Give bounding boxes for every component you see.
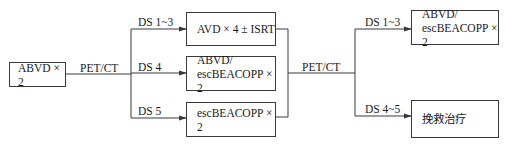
pet-ct-label-1: PET/CT: [80, 62, 118, 74]
condition-ds4-5: DS 4~5: [365, 103, 400, 115]
treatment-box-avd-isrt: AVD × 4 ± ISRT: [186, 12, 276, 46]
treatment-line: escBEACOPP × 2: [197, 67, 275, 95]
treatment-box-abvd-escbeacopp: ABVD/ escBEACOPP × 2: [186, 56, 276, 91]
treatment-line: ABVD/: [197, 53, 275, 67]
pet-ct-label-2: PET/CT: [302, 61, 340, 73]
treatment-line: 挽救治疗: [422, 112, 498, 126]
treatment-line: escBEACOPP × 2: [197, 106, 275, 134]
condition-ds1-3: DS 1~3: [138, 16, 173, 28]
condition-ds1-3-second: DS 1~3: [365, 16, 400, 28]
start-box-abvd: ABVD × 2: [9, 62, 66, 87]
condition-ds4: DS 4: [138, 61, 161, 73]
treatment-line: escBEACOPP × 2: [422, 21, 498, 49]
start-box-label: ABVD × 2: [18, 61, 65, 89]
condition-ds5: DS 5: [138, 105, 161, 117]
treatment-line: ABVD/: [422, 7, 498, 21]
treatment-box-salvage-therapy: 挽救治疗: [411, 100, 499, 138]
treatment-box-escbeacopp: escBEACOPP × 2: [186, 102, 276, 137]
treatment-line: AVD × 4 ± ISRT: [197, 22, 275, 36]
treatment-box-abvd-escbeacopp-second: ABVD/ escBEACOPP × 2: [411, 10, 499, 45]
